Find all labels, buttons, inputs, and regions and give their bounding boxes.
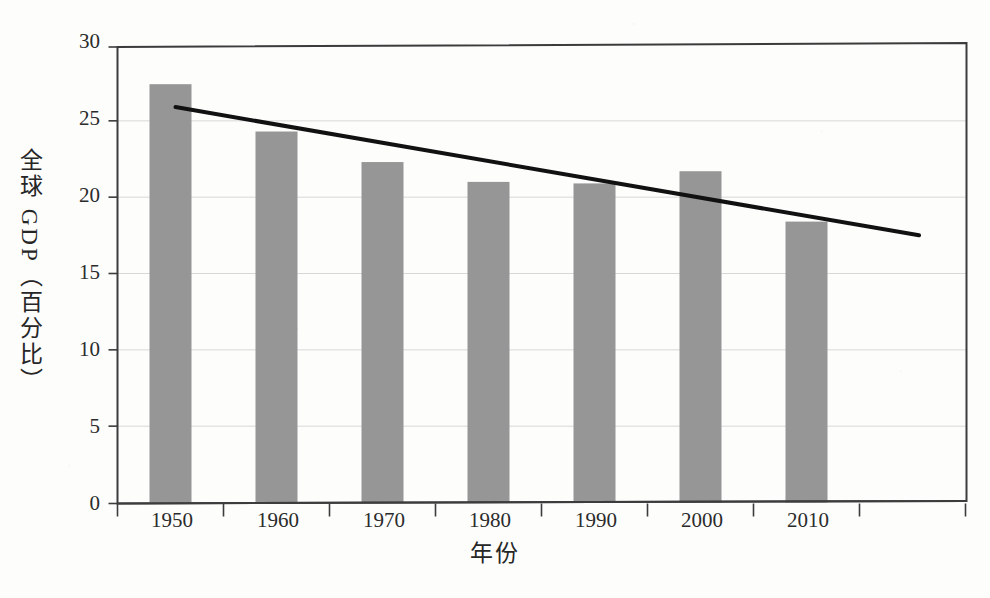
bar-2000 (680, 171, 722, 502)
chart-figure: 全球 GDP（百分比） 30 25 20 15 10 5 0 1950 1960… (0, 0, 990, 598)
bar-1960 (256, 132, 298, 503)
bar-1980 (468, 182, 510, 503)
bar-1990 (574, 183, 616, 502)
bar-1950 (150, 84, 192, 502)
plot-area (0, 0, 990, 598)
bar-1970 (362, 162, 404, 502)
gridlines (118, 121, 967, 426)
bar-series (150, 84, 828, 502)
bar-2010 (786, 222, 828, 503)
x-axis-baseline (118, 501, 967, 504)
